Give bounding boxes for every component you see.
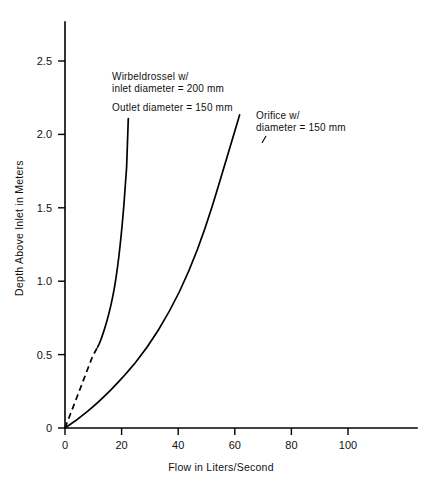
y-tick-label-0-5: 0.5: [37, 349, 52, 361]
flow-depth-chart: 0 0.5 1.0 1.5 2.0 2.5 0 20 40 60 80 100 …: [0, 0, 430, 485]
y-tick-label-1-5: 1.5: [37, 202, 52, 214]
x-tick-marks: [65, 428, 348, 435]
x-tick-label-40: 40: [172, 439, 184, 451]
series-wirbeldrossel-solid: [98, 119, 129, 348]
x-tick-label-100: 100: [339, 439, 357, 451]
y-tick-labels: 0 0.5 1.0 1.5 2.0 2.5: [37, 55, 52, 434]
x-tick-label-0: 0: [62, 439, 68, 451]
y-tick-label-0: 0: [46, 422, 52, 434]
x-tick-label-80: 80: [285, 439, 297, 451]
x-tick-label-60: 60: [229, 439, 241, 451]
x-tick-labels: 0 20 40 60 80 100: [62, 439, 357, 451]
y-axis-title: Depth Above Inlet in Meters: [13, 160, 25, 296]
y-tick-label-2-0: 2.0: [37, 128, 52, 140]
x-axis-title: Flow in Liters/Second: [168, 461, 274, 473]
annotation-orifice-line1: Orifice w/: [256, 110, 300, 121]
annotation-orifice-line2: diameter = 150 mm: [256, 122, 346, 133]
y-tick-label-2-5: 2.5: [37, 55, 52, 67]
annotation-wirbeldrossel-line3: Outlet diameter = 150 mm: [112, 102, 233, 113]
x-tick-label-20: 20: [115, 439, 127, 451]
y-tick-marks: [58, 61, 65, 428]
annotation-orifice: Orifice w/ diameter = 150 mm: [256, 110, 346, 143]
series-orifice: [65, 115, 240, 428]
chart-page: 0 0.5 1.0 1.5 2.0 2.5 0 20 40 60 80 100 …: [0, 0, 430, 485]
annotation-orifice-leader: [262, 136, 266, 143]
annotation-wirbeldrossel: Wirbeldrossel w/ inlet diameter = 200 mm…: [112, 71, 233, 113]
annotation-wirbeldrossel-line1: Wirbeldrossel w/: [112, 71, 189, 82]
annotation-wirbeldrossel-line2: inlet diameter = 200 mm: [112, 83, 224, 94]
y-tick-label-1-0: 1.0: [37, 275, 52, 287]
